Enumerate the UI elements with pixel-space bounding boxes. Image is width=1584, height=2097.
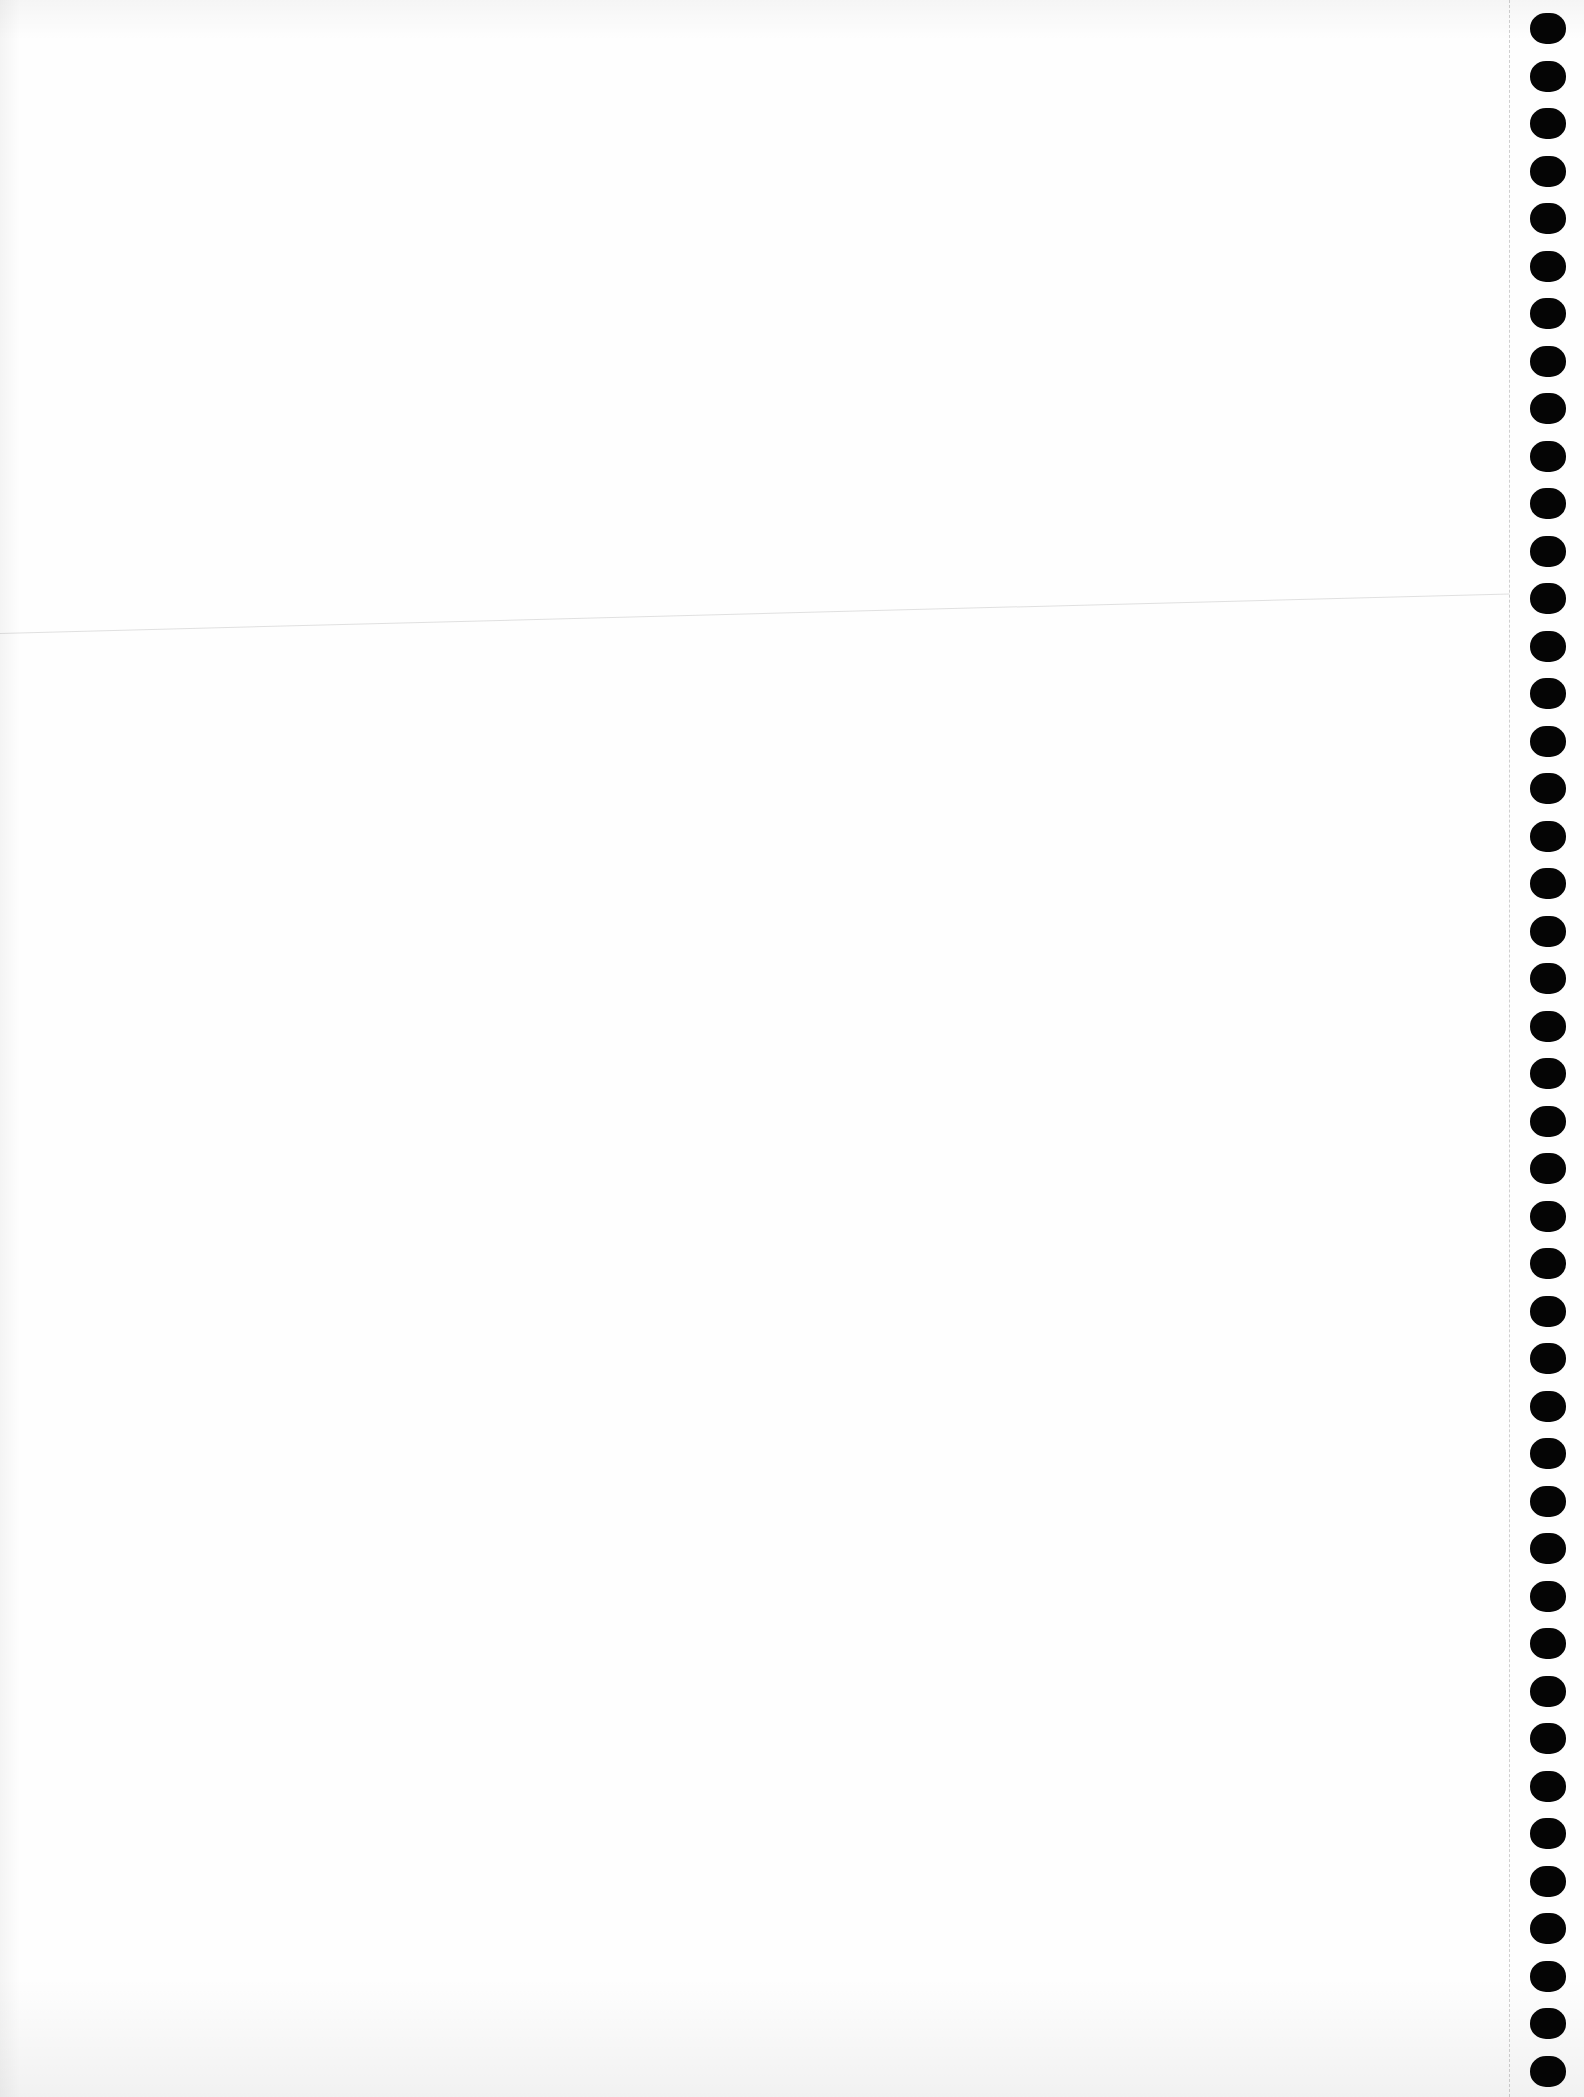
tractor-feed-holes [1530,13,1566,2097]
feed-hole [1530,536,1566,567]
feed-hole [1530,1201,1566,1232]
fold-crease-line [0,593,1509,634]
feed-hole [1530,726,1566,757]
feed-hole [1530,346,1566,377]
feed-hole [1530,156,1566,187]
feed-hole [1530,1866,1566,1897]
feed-hole [1530,1058,1566,1089]
paper-sheet [0,0,1584,2097]
feed-hole [1530,1961,1566,1992]
feed-hole [1530,108,1566,139]
feed-hole [1530,1676,1566,1707]
feed-hole [1530,773,1566,804]
feed-hole [1530,2008,1566,2039]
feed-hole [1530,1106,1566,1137]
feed-hole [1530,2056,1566,2087]
feed-hole [1530,61,1566,92]
feed-hole [1530,916,1566,947]
feed-hole [1530,678,1566,709]
feed-hole [1530,631,1566,662]
feed-hole [1530,821,1566,852]
feed-hole [1530,203,1566,234]
perforation-line [1509,0,1510,2097]
feed-hole [1530,1581,1566,1612]
feed-hole [1530,963,1566,994]
feed-hole [1530,1438,1566,1469]
feed-hole [1530,1391,1566,1422]
feed-hole [1530,1248,1566,1279]
feed-hole [1530,488,1566,519]
feed-hole [1530,298,1566,329]
feed-hole [1530,13,1566,44]
feed-hole [1530,583,1566,614]
feed-hole [1530,251,1566,282]
feed-hole [1530,1771,1566,1802]
feed-hole [1530,1343,1566,1374]
feed-hole [1530,1153,1566,1184]
feed-hole [1530,1913,1566,1944]
feed-hole [1530,1533,1566,1564]
feed-hole [1530,868,1566,899]
feed-hole [1530,1628,1566,1659]
feed-hole [1530,1486,1566,1517]
feed-hole [1530,1296,1566,1327]
feed-hole [1530,441,1566,472]
feed-hole [1530,1818,1566,1849]
feed-hole [1530,1011,1566,1042]
feed-hole [1530,1723,1566,1754]
feed-hole [1530,393,1566,424]
